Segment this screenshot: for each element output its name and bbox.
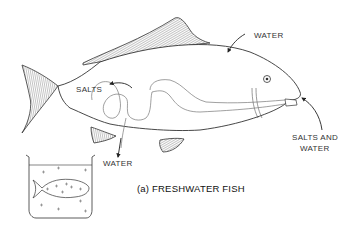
salts-out-label: SALTS (76, 85, 102, 95)
tail-fin (22, 65, 58, 133)
mouth (285, 99, 297, 106)
anal-fin (160, 138, 184, 152)
beaker (26, 155, 95, 218)
pelvic-fin (91, 127, 116, 143)
ion-symbols (40, 167, 87, 213)
water-out-label: WATER (103, 159, 133, 169)
water-in-label: WATER (254, 31, 284, 41)
salts-and-water-in-arrow (302, 98, 322, 130)
diagram-caption: (a) FRESHWATER FISH (137, 183, 245, 194)
salts-and-water-label-line2: WATER (300, 144, 330, 154)
salts-and-water-label-line1: SALTS AND (292, 133, 338, 143)
water-out-arrow (118, 138, 121, 157)
